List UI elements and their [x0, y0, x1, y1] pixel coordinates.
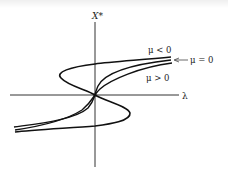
label-mu-negative: μ < 0 [148, 45, 171, 55]
origin-point [93, 93, 96, 96]
x-axis-label: λ [182, 91, 188, 101]
label-mu-zero: μ = 0 [190, 55, 213, 65]
y-axis-label: X* [91, 11, 103, 21]
diagram-canvas: X* λ μ < 0 μ = 0 μ > 0 [0, 0, 228, 173]
bifurcation-diagram: X* λ μ < 0 μ = 0 μ > 0 [0, 0, 228, 173]
label-mu-positive: μ > 0 [146, 73, 169, 83]
